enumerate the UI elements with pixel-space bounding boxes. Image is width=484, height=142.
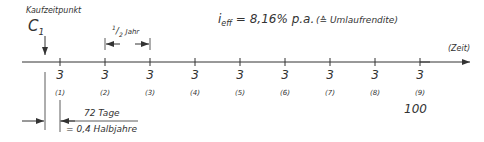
- cashflow-value: 3: [185, 68, 205, 82]
- cashflow-value: 3: [365, 68, 385, 82]
- rate-note: (≙ Umlaufrendite): [316, 15, 398, 25]
- period-index: (1): [50, 89, 70, 97]
- cashflow-value: 3: [410, 68, 430, 82]
- purchase-label: Kaufzeitpunkt: [26, 6, 81, 15]
- period-index: (5): [230, 89, 250, 97]
- period-index: (6): [275, 89, 295, 97]
- effective-rate: ieff = 8,16% p.a.: [218, 12, 314, 28]
- period-index: (3): [140, 89, 160, 97]
- half-year-label: 1/2 Jahr: [112, 24, 139, 38]
- period-index: (9): [410, 89, 430, 97]
- cashflow-value: 3: [230, 68, 250, 82]
- period-index: (8): [365, 89, 385, 97]
- period-index: (2): [95, 89, 115, 97]
- cashflow-value: 3: [50, 68, 70, 82]
- cashflow-value: 3: [320, 68, 340, 82]
- redemption-value: 100: [404, 102, 427, 116]
- cashflow-value: 3: [140, 68, 160, 82]
- axis-label: (Zeit): [448, 44, 470, 53]
- cashflow-value: 3: [275, 68, 295, 82]
- period-index: (4): [185, 89, 205, 97]
- purchase-symbol: C1: [28, 17, 44, 37]
- period-index: (7): [320, 89, 340, 97]
- offset-days: 72 Tage: [84, 108, 120, 118]
- cashflow-value: 3: [95, 68, 115, 82]
- offset-halfyears: = 0,4 Halbjahre: [66, 124, 137, 134]
